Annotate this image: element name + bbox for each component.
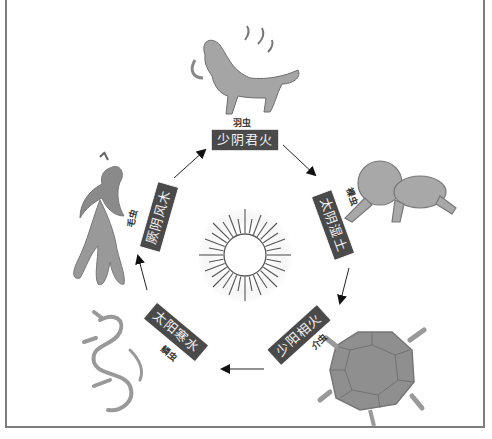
qilin-icon: [192, 26, 299, 114]
five-elements-cycle-diagram: [0, 0, 492, 439]
arrow-jueyin-to-shaoyin: [174, 150, 205, 178]
label-shaoyin-junhuo: 少阴君火: [212, 130, 278, 150]
arrow-taiyin-to-shaoyang: [340, 268, 349, 303]
creature-label-yuchong: 羽虫: [233, 116, 251, 129]
phoenix-icon: [74, 152, 125, 285]
sun-icon: [197, 207, 293, 303]
arrow-taiyang-to-jueyin: [138, 256, 147, 290]
turtle-icon: [320, 330, 424, 426]
crawling-human-icon: [345, 161, 456, 222]
dragon-icon: [84, 312, 142, 410]
arrow-shaoyin-to-taiyin: [283, 145, 315, 175]
